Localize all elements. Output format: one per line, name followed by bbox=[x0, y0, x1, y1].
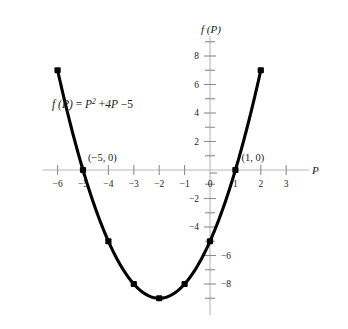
y-tick-label--2: −2 bbox=[189, 194, 199, 204]
equation-label-group: f (P) = P2 +4P −5 bbox=[52, 97, 133, 111]
parabola-chart: −6−5−4−3−2−101238642−2−4−6−8 (−5, 0)(1, … bbox=[0, 0, 348, 329]
x-tick-label--2: −2 bbox=[154, 179, 164, 189]
axes-group bbox=[42, 36, 309, 315]
data-point-0--5 bbox=[207, 238, 213, 244]
y-axis-label: f (P) bbox=[201, 23, 221, 36]
data-point-1-0 bbox=[232, 167, 238, 173]
y-tick-label--4: −4 bbox=[189, 222, 199, 232]
data-point--1--8 bbox=[182, 281, 188, 287]
annotation-root-left: (−5, 0) bbox=[88, 152, 117, 164]
x-tick-label-2: 2 bbox=[258, 179, 263, 189]
y-tick-label--6: −6 bbox=[221, 251, 231, 261]
y-tick-label-8: 8 bbox=[194, 51, 199, 61]
x-tick-label--6: −6 bbox=[53, 179, 63, 189]
y-tick-label-2: 2 bbox=[194, 137, 199, 147]
plot-canvas: −6−5−4−3−2−101238642−2−4−6−8 (−5, 0)(1, … bbox=[0, 0, 348, 329]
y-tick-label-4: 4 bbox=[194, 108, 199, 118]
x-tick-label--3: −3 bbox=[129, 179, 139, 189]
data-point-2-7 bbox=[258, 67, 264, 73]
y-tick-label-6: 6 bbox=[194, 80, 199, 90]
data-point--6-7 bbox=[55, 67, 61, 73]
data-point--4--5 bbox=[105, 238, 111, 244]
x-axis-label: P bbox=[311, 164, 319, 176]
x-tick-label--1: −1 bbox=[180, 179, 190, 189]
x-tick-label--4: −4 bbox=[103, 179, 113, 189]
x-tick-label-3: 3 bbox=[284, 179, 289, 189]
x-tick-label-0: 0 bbox=[208, 179, 213, 189]
data-point--5-0 bbox=[80, 167, 86, 173]
annotation-root-right: (1, 0) bbox=[241, 152, 264, 164]
data-point--2--9 bbox=[156, 295, 162, 301]
equation-label: f (P) = P2 +4P −5 bbox=[52, 97, 133, 111]
y-tick-label--8: −8 bbox=[221, 279, 231, 289]
data-point--3--8 bbox=[131, 281, 137, 287]
